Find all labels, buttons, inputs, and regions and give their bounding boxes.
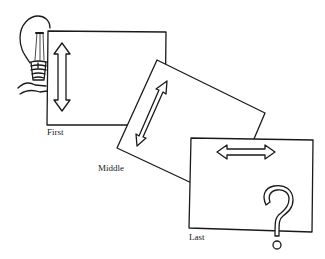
label-first: First (47, 127, 64, 137)
frame-last (189, 138, 313, 249)
label-last: Last (189, 232, 205, 242)
light-bulb-icon (18, 16, 50, 94)
label-middle: Middle (98, 163, 124, 173)
